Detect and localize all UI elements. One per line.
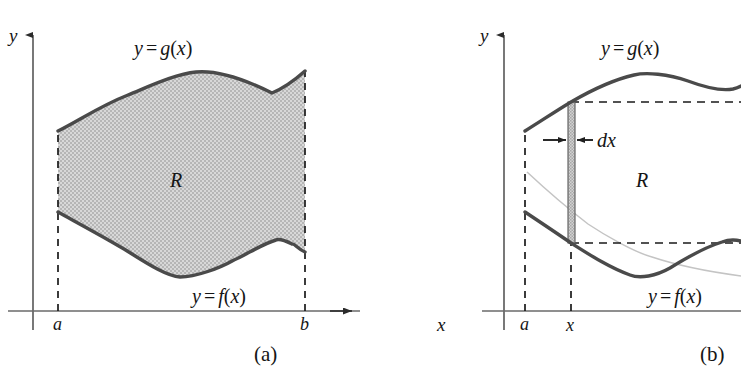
panel-b-region-label: R (636, 170, 648, 190)
panel-b-g-close-paren: ) (653, 37, 660, 59)
panel-a-g-open-paren: ( (170, 37, 177, 59)
panel-b-f-close-paren: ) (695, 285, 702, 307)
panel-b-tick-a: a (520, 315, 529, 333)
panel-b-g-op: = (610, 37, 627, 59)
panel-b-lower-curve-label: y=f(x) (648, 286, 702, 306)
panel-b-ghost-curve (527, 172, 741, 276)
panel-b-f-lhs: y (648, 285, 657, 307)
panel-b-g-lhs: y (601, 37, 610, 59)
panel-b-dx-label: dx (597, 130, 616, 150)
panel-a-g-fn: g (160, 37, 170, 59)
panel-a-f-arg: x (230, 285, 239, 307)
panel-b-f-op: = (657, 285, 674, 307)
panel-b-g-open-paren: ( (637, 37, 644, 59)
panel-b-g-arg: x (644, 37, 653, 59)
panel-a-caption: (a) (254, 344, 277, 365)
panel-a-g-close-paren: ) (186, 37, 193, 59)
panel-a-x-axis-label: x (437, 315, 445, 334)
panel-a-lower-curve-label: y=f(x) (192, 286, 246, 306)
panel-a-g-lhs: y (134, 37, 143, 59)
panel-b-g-fn: g (627, 37, 637, 59)
panel-b-curve-f (525, 212, 741, 277)
panel-b-f-arg: x (686, 285, 695, 307)
panel-a-region-label: R (170, 170, 182, 190)
panel-b-caption: (b) (700, 344, 725, 365)
panel-b-tick-x: x (566, 316, 574, 334)
panel-a-tick-b: b (300, 315, 309, 333)
panel-b-dx-strip (568, 102, 575, 243)
panel-a-upper-curve-label: y=g(x) (134, 38, 192, 58)
panel-a-f-lhs: y (192, 285, 201, 307)
panel-a-f-op: = (201, 285, 218, 307)
panel-a-f-close-paren: ) (239, 285, 246, 307)
figure-area-between-curves: y y=g(x) R y=f(x) a b x (a) y y=g(x) dx … (0, 0, 741, 368)
panel-b-upper-curve-label: y=g(x) (601, 38, 659, 58)
panel-a-g-arg: x (177, 37, 186, 59)
panel-a-tick-a: a (53, 315, 62, 333)
panel-a-g-op: = (143, 37, 160, 59)
panel-a-graphics (8, 35, 360, 330)
panel-b-y-axis-label: y (480, 26, 488, 45)
panel-a-y-axis-label: y (9, 26, 17, 45)
